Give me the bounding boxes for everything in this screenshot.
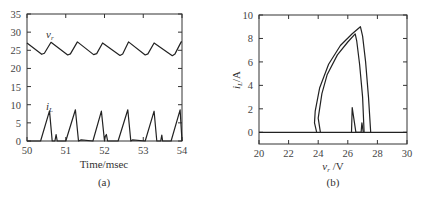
y-tick-label: 4 (248, 80, 254, 91)
panel-b-ylabel: iL/A (230, 71, 244, 89)
series-i-L (27, 110, 182, 141)
panel-b-chart: 2022242628300246810 vr /V (b) iL/A (230, 10, 412, 189)
x-tick-label: 51 (61, 145, 72, 156)
y-tick-label: 0 (248, 127, 253, 138)
y-tick-label: 10 (243, 10, 254, 21)
panel-b-caption: (b) (327, 176, 340, 189)
x-tick-label: 30 (402, 148, 413, 159)
panel-a-chart: 505152535405101520253035 Time/msec (a) v… (11, 9, 189, 189)
y-tick-label: 5 (16, 118, 21, 129)
x-tick-label: 52 (99, 145, 110, 156)
figure: 505152535405101520253035 Time/msec (a) v… (0, 0, 423, 198)
il-annotation: iL (46, 100, 53, 114)
panel-b-ticks: 2022242628300246810 (243, 10, 413, 159)
y-tick-label: 6 (248, 57, 253, 68)
panel-a-caption: (a) (98, 176, 111, 189)
y-tick-label: 20 (11, 63, 22, 74)
series-v-r (27, 42, 182, 56)
x-tick-label: 24 (313, 148, 324, 159)
series-outer-loop (315, 27, 371, 133)
x-tick-label: 53 (138, 145, 149, 156)
series-inner-loop (318, 34, 364, 133)
x-tick-label: 28 (372, 148, 383, 159)
panel-b-frame (259, 15, 407, 144)
panel-a-series (27, 42, 182, 141)
panel-b-series (259, 27, 407, 133)
x-tick-label: 26 (343, 148, 354, 159)
vr-annotation: vr (46, 28, 54, 42)
panel-a-xlabel: Time/msec (80, 158, 129, 170)
x-tick-label: 22 (283, 148, 294, 159)
x-tick-label: 54 (177, 145, 188, 156)
panel-a-ticks: 505152535405101520253035 (11, 9, 189, 156)
x-tick-label: 20 (254, 148, 265, 159)
y-tick-label: 35 (11, 9, 22, 20)
y-tick-label: 2 (248, 104, 253, 115)
y-tick-label: 10 (11, 100, 22, 111)
y-tick-label: 25 (11, 45, 22, 56)
x-tick-label: 50 (22, 145, 33, 156)
y-tick-label: 8 (248, 33, 253, 44)
y-tick-label: 0 (16, 136, 21, 147)
series-spikes (352, 108, 364, 133)
y-tick-label: 15 (11, 82, 22, 93)
y-tick-label: 30 (11, 27, 22, 38)
panel-b-xlabel: vr /V (322, 160, 343, 174)
